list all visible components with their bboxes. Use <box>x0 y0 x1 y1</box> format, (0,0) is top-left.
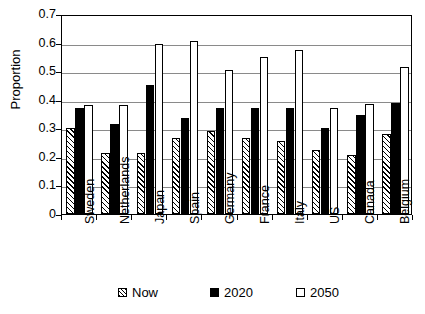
bar-belgium-now <box>382 134 390 214</box>
x-label-belgium: Belgium <box>399 179 412 224</box>
bar-us-now <box>312 150 320 214</box>
bar-sweden-now <box>66 128 74 214</box>
x-label-sweden: Sweden <box>84 179 97 224</box>
y-tick-label: 0.7 <box>26 8 56 21</box>
y-tick-label: 0.4 <box>26 94 56 107</box>
bar-group <box>132 16 167 214</box>
legend-swatch-2020-icon <box>210 288 219 297</box>
x-label-germany: Germany <box>224 173 237 224</box>
bar-italy-2050 <box>295 50 303 214</box>
x-label-us: US <box>329 207 342 224</box>
x-label-spain: Spain <box>189 192 202 224</box>
y-tick-label: 0.2 <box>26 151 56 164</box>
legend-label: 2050 <box>310 285 339 300</box>
y-tick-label: 0.6 <box>26 37 56 50</box>
bar-japan-now <box>137 153 145 214</box>
y-axis-title: Proportion <box>8 20 23 140</box>
x-tick-mark <box>61 215 62 220</box>
bar-us-2050 <box>330 108 338 214</box>
y-tick-label: 0.3 <box>26 122 56 135</box>
legend-item-now[interactable]: Now <box>118 285 158 300</box>
y-tick-label: 0.1 <box>26 179 56 192</box>
legend-item-2050[interactable]: 2050 <box>296 285 339 300</box>
bar-group <box>273 16 308 214</box>
legend-label: Now <box>132 285 158 300</box>
bar-group <box>308 16 343 214</box>
bar-us-2020 <box>321 128 329 214</box>
bar-spain-2050 <box>190 41 198 214</box>
legend-swatch-now-icon <box>118 288 127 297</box>
bar-spain-now <box>172 138 180 214</box>
x-label-italy: Italy <box>294 201 307 224</box>
bar-italy-now <box>277 141 285 214</box>
bar-canada-now <box>347 155 355 214</box>
y-tick-label: 0 <box>26 208 56 221</box>
chart-legend: Now20202050 <box>118 285 348 305</box>
x-tick-mark <box>412 215 413 220</box>
legend-swatch-2050-icon <box>296 288 305 297</box>
bar-france-now <box>242 138 250 214</box>
x-label-canada: Canada <box>364 180 377 224</box>
bar-group <box>167 16 202 214</box>
y-tick-label: 0.5 <box>26 65 56 78</box>
x-tick-mark <box>377 215 378 220</box>
bar-italy-2020 <box>286 108 294 214</box>
bar-germany-now <box>207 131 215 214</box>
x-label-france: France <box>259 185 272 224</box>
legend-item-2020[interactable]: 2020 <box>210 285 253 300</box>
bar-netherlands-now <box>101 153 109 214</box>
x-label-japan: Japan <box>154 190 167 224</box>
x-label-netherlands: Netherlands <box>119 157 132 224</box>
bar-japan-2050 <box>155 44 163 214</box>
bar-chart-figure: Proportion 0.70.60.50.40.30.20.10 Sweden… <box>0 0 425 314</box>
legend-label: 2020 <box>224 285 253 300</box>
